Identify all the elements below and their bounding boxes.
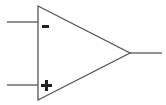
plus-sign-v [45,80,48,91]
op-amp-symbol [0,0,166,105]
minus-sign-icon [42,25,49,28]
